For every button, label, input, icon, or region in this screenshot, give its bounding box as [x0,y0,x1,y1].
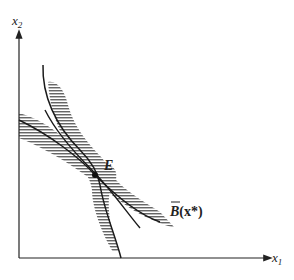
y-axis-label: x2 [11,13,23,30]
equilibrium-point [92,172,98,178]
diagram-figure: x2 x1 E B(x*) [0,0,294,280]
curve-label: B(x*) [169,204,203,220]
point-label: E [103,158,113,173]
x-axis-label: x1 [271,250,282,267]
